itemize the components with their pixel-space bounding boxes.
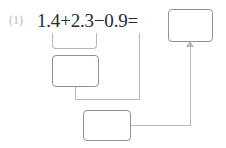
problem-number-label: (1) xyxy=(9,13,23,28)
grouping-bracket-icon xyxy=(52,33,97,49)
answer-box-final[interactable] xyxy=(168,9,213,42)
answer-box-first-step[interactable] xyxy=(52,55,99,87)
answer-box-second-step[interactable] xyxy=(83,110,131,141)
connector-line-from-operand-0-9 xyxy=(139,33,140,100)
connector-line-first-step-horizontal xyxy=(75,99,140,100)
connector-line-second-step-vertical xyxy=(190,46,191,126)
worksheet-problem-canvas: (1) 1.4+2.3−0.9= xyxy=(0,0,226,148)
expression-text: 1.4+2.3−0.9= xyxy=(37,10,138,32)
connector-line-second-step-horizontal xyxy=(131,125,191,126)
